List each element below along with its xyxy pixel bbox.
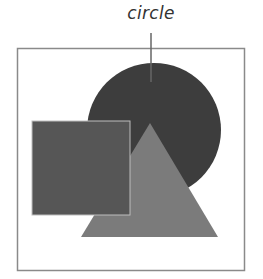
square-shape bbox=[32, 121, 130, 215]
shapes-diagram bbox=[0, 0, 263, 279]
